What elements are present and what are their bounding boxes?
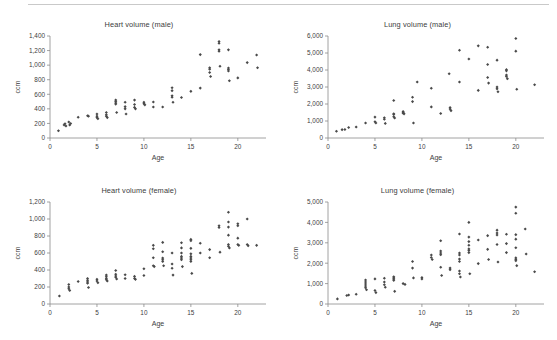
data-point	[236, 224, 239, 227]
data-point	[383, 277, 386, 280]
data-point	[467, 244, 470, 247]
top-divider-rule	[28, 4, 549, 5]
data-point	[515, 264, 518, 267]
data-point	[227, 234, 230, 237]
data-point	[171, 274, 174, 277]
panel-lung-female: Lung volume (female) 01,0002,0003,0004,0…	[278, 174, 557, 340]
data-point	[171, 251, 174, 254]
x-axis-label: Age	[430, 154, 443, 162]
x-tick-label: 0	[48, 309, 52, 316]
data-point	[124, 107, 127, 110]
data-point	[392, 99, 395, 102]
data-point	[199, 53, 202, 56]
data-point-group	[57, 40, 259, 132]
y-tick-label: 1,200	[29, 47, 45, 54]
data-point	[217, 42, 220, 45]
data-point	[142, 274, 145, 277]
data-point	[227, 48, 230, 51]
data-point	[467, 57, 470, 60]
x-tick-label: 15	[187, 309, 195, 316]
x-tick-label: 5	[95, 143, 99, 150]
data-point	[152, 244, 155, 247]
data-point	[171, 86, 174, 89]
x-tick-label: 20	[234, 309, 242, 316]
data-point	[180, 258, 183, 261]
plot-heart-female: 02004006008001,0001,20005101520Ageccm	[0, 174, 278, 340]
data-point	[189, 260, 192, 263]
scatter-svg-heart-male: 02004006008001,0001,2001,40005101520Agec…	[0, 8, 278, 174]
data-point	[459, 276, 462, 279]
data-point	[171, 101, 174, 104]
data-point	[448, 72, 451, 75]
x-tick-label: 15	[465, 309, 473, 316]
data-point	[236, 237, 239, 240]
data-point	[364, 121, 367, 124]
data-point	[355, 125, 358, 128]
x-tick-label: 10	[140, 309, 148, 316]
x-tick-label: 10	[418, 309, 426, 316]
data-point	[439, 112, 442, 115]
data-point	[115, 111, 118, 114]
data-point	[171, 263, 174, 266]
data-point	[142, 267, 145, 270]
data-point	[228, 79, 231, 82]
data-point	[458, 49, 461, 52]
data-point	[343, 128, 346, 131]
y-tick-label: 0	[319, 134, 323, 141]
plot-lung-female: 01,0002,0003,0004,0005,00005101520Ageccm	[278, 174, 557, 340]
data-point	[255, 53, 258, 56]
data-point	[180, 96, 183, 99]
y-tick-label: 200	[34, 283, 45, 290]
data-point	[190, 272, 193, 275]
data-point	[373, 277, 376, 280]
data-point	[180, 251, 183, 254]
data-point	[430, 105, 433, 108]
y-tick-label: 3,000	[307, 83, 323, 90]
data-point	[458, 232, 461, 235]
data-point	[124, 273, 127, 276]
panel-lung-male: Lung volume (male) 01,0002,0003,0004,000…	[278, 8, 557, 174]
y-tick-label: 600	[34, 91, 45, 98]
data-point	[477, 44, 480, 47]
x-tick-label: 5	[95, 309, 99, 316]
data-point	[152, 247, 155, 250]
data-point	[217, 226, 220, 229]
data-point	[467, 240, 470, 243]
figure-panel-grid: Heart volume (male) 02004006008001,0001,…	[0, 8, 557, 340]
data-point	[495, 233, 498, 236]
data-point	[87, 286, 90, 289]
data-point	[180, 246, 183, 249]
data-point	[458, 81, 461, 84]
panel-heart-female: Heart volume (female) 02004006008001,000…	[0, 174, 278, 340]
data-point	[495, 87, 498, 90]
y-axis-label: ccm	[292, 80, 299, 93]
data-point	[124, 101, 127, 104]
y-tick-label: 5,000	[307, 198, 323, 205]
data-point	[199, 87, 202, 90]
data-point	[411, 267, 414, 270]
data-point	[505, 251, 508, 254]
y-tick-label: 1,000	[307, 117, 323, 124]
data-point	[411, 100, 414, 103]
data-point	[496, 90, 499, 93]
data-point	[218, 65, 221, 68]
x-tick-label: 20	[234, 143, 242, 150]
data-point	[208, 71, 211, 74]
x-tick-label: 0	[326, 309, 330, 316]
y-tick-label: 400	[34, 266, 45, 273]
data-point	[162, 264, 165, 267]
data-point	[514, 212, 517, 215]
x-tick-label: 5	[373, 143, 377, 150]
data-point	[514, 50, 517, 53]
data-point	[77, 116, 80, 119]
data-point	[133, 99, 136, 102]
data-point	[439, 253, 442, 256]
data-point	[449, 268, 452, 271]
x-tick-label: 10	[418, 143, 426, 150]
data-point	[393, 290, 396, 293]
data-point	[412, 121, 415, 124]
data-point	[227, 220, 230, 223]
y-tick-label: 400	[34, 105, 45, 112]
data-point	[189, 247, 192, 250]
data-point	[181, 265, 184, 268]
